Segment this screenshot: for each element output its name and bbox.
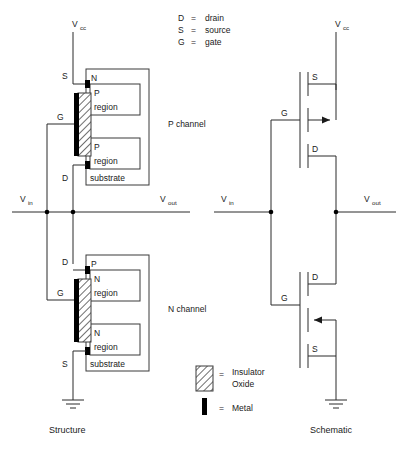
schematic-nmos-drain-label: D: [312, 272, 318, 282]
pmos-source-terminal-label: S: [62, 71, 68, 81]
schematic-pmos-gate-label: G: [281, 108, 288, 118]
structure-caption: Structure: [49, 425, 86, 435]
schematic-vcc-label-sub: cc: [343, 24, 349, 31]
schematic-vin-junction-dot: [269, 210, 274, 215]
pmos-region-bottom-line2: region: [94, 156, 118, 166]
structure-vout-junction-dot: [71, 210, 76, 215]
schematic-vout-junction-dot: [334, 210, 339, 215]
legend-terminal-key-2: G: [178, 37, 185, 47]
legend-metal-line1: Metal: [232, 403, 253, 413]
p-channel-label: P channel: [168, 119, 206, 129]
legend-metal-swatch: [202, 398, 207, 415]
vout-label-sub: out: [168, 199, 177, 206]
n-channel-label: N channel: [168, 304, 206, 314]
nmos-drain-metal-contact: [85, 266, 90, 274]
pmos-body-label: N: [91, 73, 97, 83]
legend-terminal-eq-1: =: [191, 25, 196, 35]
pmos-substrate-label: substrate: [90, 173, 125, 183]
legend-metal-eq: =: [219, 403, 224, 413]
vin-label-base: V: [20, 194, 26, 204]
vout-label-base: V: [160, 194, 166, 204]
pmos-region-bottom-line1: P: [94, 142, 100, 152]
legend-terminal-eq-2: =: [191, 37, 196, 47]
nmos-oxide-insulator: [78, 279, 91, 342]
nmos-gate-metal: [74, 279, 79, 342]
legend-terminal-value-2: gate: [205, 37, 222, 47]
nmos-region-top-line1: N: [94, 274, 100, 284]
legend-terminal-key-0: D: [178, 13, 184, 23]
vcc-label-sub: cc: [80, 24, 86, 31]
schematic-vout-label-sub: out: [372, 199, 381, 206]
legend-terminal-key-1: S: [178, 25, 184, 35]
legend-insulator-swatch: [196, 366, 213, 391]
schematic-vin-label-sub: in: [229, 199, 234, 206]
schematic-vout-label-base: V: [364, 194, 370, 204]
nmos-source-terminal-label: S: [62, 359, 68, 369]
nmos-region-bottom-line2: region: [94, 342, 118, 352]
pmos-gate-metal: [74, 93, 79, 156]
schematic-vin-label-base: V: [221, 194, 227, 204]
schematic-pmos-source-label: S: [312, 72, 318, 82]
vcc-label-base: V: [72, 19, 78, 29]
cmos-inverter-diagram: D = drain S = source G = gate V cc N P r…: [0, 0, 405, 451]
legend-terminal-eq-0: =: [191, 13, 196, 23]
nmos-substrate-label: substrate: [90, 359, 125, 369]
legend-terminal-value-0: drain: [205, 13, 224, 23]
nmos-drain-terminal-label: D: [62, 257, 68, 267]
nmos-region-bottom-line1: N: [94, 328, 100, 338]
legend-insulator-line2: Oxide: [232, 379, 254, 389]
schematic-pmos-drain-label: D: [312, 144, 318, 154]
legend-terminal-value-1: source: [205, 25, 231, 35]
pmos-oxide-insulator: [78, 93, 91, 156]
schematic-nmos-source-label: S: [312, 344, 318, 354]
pmos-drain-terminal-label: D: [62, 173, 68, 183]
legend-insulator-line1: Insulator: [232, 367, 265, 377]
pmos-gate-terminal-label: G: [57, 112, 64, 122]
pmos-source-metal-contact: [85, 80, 90, 88]
nmos-gate-terminal-label: G: [57, 288, 64, 298]
vin-label-sub: in: [28, 199, 33, 206]
pmos-region-top-line2: region: [94, 102, 118, 112]
schematic-nmos-gate-label: G: [281, 293, 288, 303]
nmos-body-label: P: [91, 259, 97, 269]
pmos-region-top-line1: P: [94, 88, 100, 98]
schematic-caption: Schematic: [310, 425, 353, 435]
schematic-vcc-label-base: V: [335, 19, 341, 29]
nmos-region-top-line2: region: [94, 288, 118, 298]
legend-insulator-eq: =: [219, 369, 224, 379]
structure-vin-junction-dot: [45, 210, 50, 215]
